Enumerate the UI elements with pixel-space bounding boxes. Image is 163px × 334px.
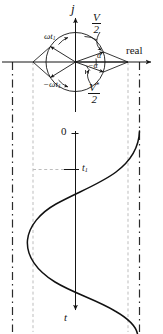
phasor-v-star-half-rotated [51,62,76,78]
rotation-arc-positive-arrow [59,38,69,45]
phasor-v-star-half-label: V* 2 [88,82,100,105]
phasor-v-star-half-numerator: V* [88,82,100,93]
angle-alpha-label: α [97,52,101,60]
rotation-negative-label: −ωt1 [43,80,61,90]
rotation-positive-label: ωt1 [44,32,56,42]
phasor-diagram [2,18,151,112]
real-axis-label: real [126,45,142,56]
phasor-v-half-rotated [51,47,76,63]
construction-lower-right [104,62,129,72]
figure-container: j real V 2 V* 2 ωt1 −ωt1 α −α 0 t1 t [0,0,163,334]
projection-dashed-lines [33,62,128,332]
construction-upper-left [33,47,51,63]
construction-lower-left [33,62,51,78]
time-mark-label: t1 [82,163,88,174]
phasor-v-half-label: V 2 [92,12,101,35]
phasor-v-half-denominator: 2 [92,23,101,35]
time-axis-label: t [64,312,67,323]
construction-upper-right [104,52,129,62]
imaginary-axis-label: j [71,2,75,15]
phasor-v-half-numerator: V [92,12,101,23]
origin-label: 0 [61,126,67,137]
phasor-v-star-half-denominator: 2 [88,93,100,105]
angle-negative-alpha-label: −α [88,62,98,70]
